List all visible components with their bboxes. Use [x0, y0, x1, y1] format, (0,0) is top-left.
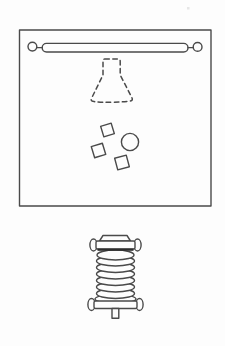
- bottom-flange-bar: [94, 301, 137, 309]
- dashed-funnel: [91, 59, 132, 102]
- bellows-ribs: [95, 250, 136, 303]
- bellows-stem: [112, 309, 119, 319]
- fragment-square-left: [91, 143, 105, 157]
- fragment-square-top: [101, 123, 115, 137]
- rod-capsule: [42, 43, 188, 52]
- chamber-outline: [20, 30, 212, 206]
- bellows-rib-1: [97, 250, 134, 260]
- top-flange-dark-band: [98, 249, 134, 251]
- fragment-circle: [121, 133, 138, 150]
- top-rod-assembly: [28, 42, 202, 52]
- scan-artifact-dot: [187, 7, 190, 10]
- bellows-top-cap: [100, 236, 131, 242]
- diagram-canvas: [0, 0, 225, 346]
- top-flange-bar: [96, 241, 135, 249]
- chamber-box: [20, 30, 212, 206]
- bellows-component: [88, 236, 143, 319]
- rod-left-end-circle: [28, 42, 37, 51]
- fragment-square-right: [115, 155, 130, 170]
- bellows-top-flange: [90, 239, 141, 251]
- fragments-group: [91, 123, 138, 170]
- diagram-svg: [0, 0, 225, 346]
- rod-right-end-circle: [193, 43, 202, 52]
